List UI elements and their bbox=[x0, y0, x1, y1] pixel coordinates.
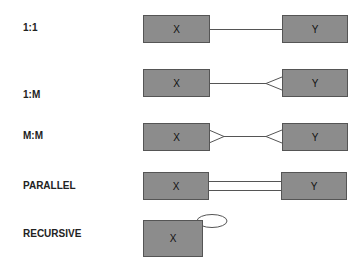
entity-y-one-to-one: Y bbox=[282, 15, 348, 43]
entity-x-parallel: X bbox=[143, 172, 209, 200]
entity-x-one-to-many: X bbox=[143, 69, 210, 97]
entity-x-recursive: X bbox=[143, 220, 203, 257]
entity-y-one-to-many: Y bbox=[282, 69, 348, 97]
entity-x-one-to-one: X bbox=[143, 15, 210, 43]
entity-y-many-to-many: Y bbox=[282, 123, 348, 151]
entity-y-parallel: Y bbox=[281, 172, 347, 200]
entity-x-many-to-many: X bbox=[143, 123, 210, 151]
